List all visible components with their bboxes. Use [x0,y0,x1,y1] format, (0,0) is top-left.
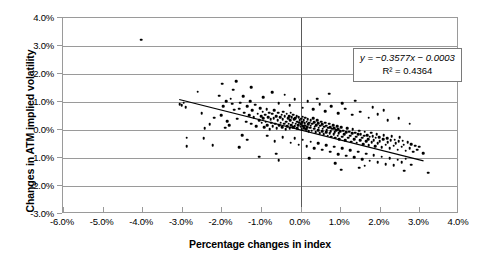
data-point [196,90,199,93]
data-point [370,132,373,135]
data-point [316,97,319,100]
data-point [242,95,245,98]
x-tick-mark [103,207,104,212]
data-point [392,164,395,167]
data-point [238,107,241,110]
data-point [337,134,340,137]
data-point [289,142,292,145]
data-point [253,116,256,119]
data-point [363,165,366,168]
data-point [258,156,261,159]
data-point [140,39,143,42]
y-tick-label: -1.0% [30,152,54,163]
data-point [283,123,286,126]
data-point [181,104,184,107]
data-point [275,115,278,118]
data-point [386,119,389,122]
data-point [282,110,285,113]
data-point [390,135,393,138]
data-point [345,154,348,157]
x-tick-label: 4.0% [448,216,469,227]
data-point [358,129,361,132]
data-point [314,131,317,134]
data-point [402,143,405,146]
data-point [230,97,233,100]
data-point [332,124,335,127]
data-point [414,144,417,147]
data-point [398,136,401,139]
data-point [293,137,296,140]
data-point [329,130,332,133]
r-squared-text: R² = 0.4364 [360,65,455,78]
data-point [329,151,332,154]
data-point [184,106,187,109]
data-point [326,134,329,137]
x-tick-label: -3.0% [169,216,193,227]
data-point [346,127,349,130]
data-point [257,112,260,115]
data-point [371,106,374,109]
data-point [278,124,281,127]
data-point [211,144,214,147]
data-point [306,100,309,103]
x-tick-mark [301,207,302,212]
data-point [203,127,206,130]
data-point [340,126,343,129]
data-point [262,117,265,120]
x-tick-mark [261,207,262,212]
data-point [225,100,228,103]
data-point [427,171,430,174]
data-point [317,142,320,145]
data-point [367,116,370,119]
data-point [321,128,324,131]
data-point [386,141,389,144]
data-point [394,142,397,145]
data-point [377,161,380,164]
data-point [367,144,370,147]
data-point [301,138,304,141]
data-point [318,132,321,135]
data-point [401,139,404,142]
x-axis-title: Percentage changes in index [62,238,458,250]
gridline [63,130,457,131]
data-point [341,102,344,105]
plot-area [62,17,458,213]
data-point [353,138,356,141]
data-point [241,134,244,137]
data-point [274,123,277,126]
x-tick-mark [142,207,143,212]
data-point [266,124,269,127]
x-tick-label: 0.0% [289,216,310,227]
y-tick-label: 1.0% [33,96,54,107]
data-point [375,133,378,136]
data-point [213,116,216,119]
data-point [359,110,362,113]
y-tick-label: -2.0% [30,180,54,191]
data-point [294,117,297,120]
data-point [378,136,381,139]
gridline [63,186,457,187]
data-point [276,119,279,122]
data-point [396,148,399,151]
data-point [246,105,249,108]
data-point [356,142,359,145]
data-point [321,148,324,151]
scatter-chart: Changes in ATM implied volatility 4.0%3.… [0,0,480,262]
data-point [309,119,312,122]
x-tick-label: -4.0% [129,216,153,227]
data-point [338,138,341,141]
y-tick-label: 2.0% [33,68,54,79]
y-tick-label: 3.0% [33,40,54,51]
data-point [255,125,258,128]
data-point [337,153,340,156]
x-tick-mark [340,207,341,212]
data-point [398,117,401,120]
data-point [390,139,393,142]
data-point [380,156,383,159]
data-point [354,100,357,103]
data-point [264,120,267,123]
x-tick-mark [63,207,64,212]
data-point [347,137,350,140]
data-point [398,140,401,143]
data-point [334,137,337,140]
